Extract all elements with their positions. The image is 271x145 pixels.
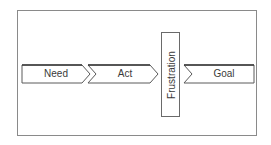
need-label: Need: [30, 68, 82, 79]
act-label: Act: [98, 68, 152, 79]
goal-label: Goal: [196, 68, 252, 79]
frustration-box: Frustration: [161, 32, 180, 117]
frustration-label: Frustration: [165, 51, 176, 99]
